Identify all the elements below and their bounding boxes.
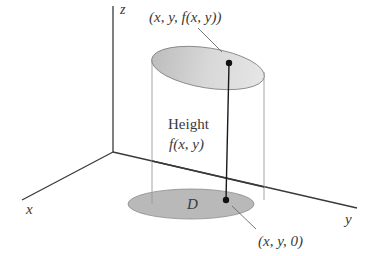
x-axis-label: x: [25, 201, 33, 217]
bottom-point-dot: [223, 197, 229, 203]
height-title-label: Height: [168, 116, 210, 132]
y-axis-label: y: [343, 211, 352, 227]
region-d-label: D: [186, 196, 198, 212]
bottom-point-label: (x, y, 0): [258, 233, 303, 250]
y-axis-front: [152, 161, 264, 187]
top-surface-ellipse: [149, 39, 268, 96]
height-expression-label: f(x, y): [169, 136, 204, 153]
top-point-dot: [226, 60, 232, 66]
top-point-label: (x, y, f(x, y)): [149, 9, 221, 26]
x-axis: [22, 152, 113, 200]
cylinder-height-diagram: z x y (x, y, f(x, y)) Height f(x, y) D (…: [0, 0, 374, 256]
z-axis-label: z: [119, 2, 126, 17]
